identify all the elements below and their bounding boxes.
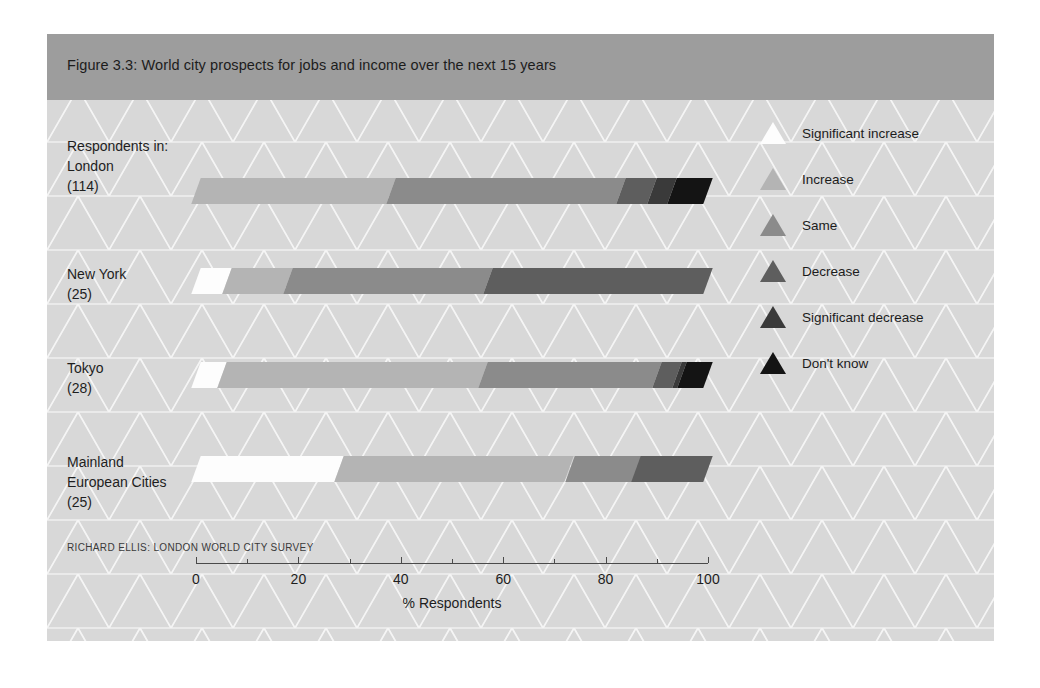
x-axis-tick-label: 20: [291, 571, 307, 587]
source-caption: RICHARD ELLIS: LONDON WORLD CITY SURVEY: [67, 542, 314, 553]
bar-segment-increase: [217, 362, 488, 388]
category-respondent-count: (25): [67, 284, 126, 304]
figure-title: Figure 3.3: World city prospects for job…: [67, 57, 556, 73]
bar-segment-increase: [222, 268, 293, 294]
bar-segment-same: [283, 268, 492, 294]
legend-triangle-icon: [760, 168, 786, 190]
legend-triangle-icon: [760, 214, 786, 236]
legend-label: Same: [802, 218, 837, 233]
bar-segment-same: [386, 178, 626, 204]
bar-segment-increase: [335, 456, 575, 482]
legend-triangle-icon: [760, 306, 786, 328]
legend-item-don-t-know[interactable]: Don't know: [760, 348, 868, 378]
legend-triangle-icon: [760, 122, 786, 144]
x-axis-tick: [196, 557, 197, 563]
category-label-new-york: New York(25): [67, 264, 126, 304]
category-respondent-count: (25): [67, 492, 167, 512]
category-label-line: Tokyo: [67, 358, 104, 378]
x-axis-tick: [503, 557, 504, 563]
bar-new-york: [196, 268, 708, 294]
legend-label: Don't know: [802, 356, 868, 371]
x-axis-line: [196, 563, 708, 564]
x-axis-minor-tick: [247, 559, 248, 563]
legend-item-decrease[interactable]: Decrease: [760, 256, 860, 286]
x-axis-tick: [708, 557, 709, 563]
category-label-mainland-european-cities: MainlandEuropean Cities(25): [67, 452, 167, 512]
x-axis-tick: [401, 557, 402, 563]
figure-container: Figure 3.3: World city prospects for job…: [47, 34, 994, 641]
legend-item-same[interactable]: Same: [760, 210, 837, 240]
bar-mainland-european-cities: [196, 456, 708, 482]
category-label-line: New York: [67, 264, 126, 284]
plot-area: Respondents in:London(114)New York(25)To…: [47, 100, 994, 641]
legend-label: Significant decrease: [802, 310, 924, 325]
legend-triangle-icon: [760, 352, 786, 374]
legend-label: Decrease: [802, 264, 860, 279]
x-axis-tick-label: 100: [696, 571, 719, 587]
bar-segment-significant-increase: [191, 456, 344, 482]
bar-tokyo: [196, 362, 708, 388]
x-axis-tick-label: 40: [393, 571, 409, 587]
x-axis-tick-label: 80: [598, 571, 614, 587]
category-label-line: European Cities: [67, 472, 167, 492]
legend-label: Significant increase: [802, 126, 919, 141]
bar-segment-same: [565, 456, 641, 482]
x-axis-tick: [606, 557, 607, 563]
bar-segment-same: [478, 362, 662, 388]
bar-segment-increase: [191, 178, 395, 204]
category-respondent-count: (28): [67, 378, 104, 398]
bar-london: [196, 178, 708, 204]
bar-segment-don-t-know: [667, 178, 712, 204]
x-axis-tick-label: 60: [495, 571, 511, 587]
category-label-tokyo: Tokyo(28): [67, 358, 104, 398]
x-axis-minor-tick: [350, 559, 351, 563]
x-axis-minor-tick: [452, 559, 453, 563]
x-axis-title: % Respondents: [403, 595, 502, 611]
x-axis-minor-tick: [657, 559, 658, 563]
respondents-in-label: Respondents in:: [67, 136, 168, 156]
bar-segment-decrease: [483, 268, 713, 294]
legend-triangle-icon: [760, 260, 786, 282]
category-label-london: London(114): [67, 156, 114, 196]
x-axis-tick: [298, 557, 299, 563]
legend-label: Increase: [802, 172, 854, 187]
bar-segment-decrease: [632, 456, 713, 482]
category-respondent-count: (114): [67, 176, 114, 196]
x-axis-minor-tick: [554, 559, 555, 563]
x-axis-tick-label: 0: [192, 571, 200, 587]
category-label-line: Mainland: [67, 452, 167, 472]
legend-item-significant-decrease[interactable]: Significant decrease: [760, 302, 924, 332]
category-label-line: London: [67, 156, 114, 176]
legend-item-increase[interactable]: Increase: [760, 164, 854, 194]
legend-item-significant-increase[interactable]: Significant increase: [760, 118, 919, 148]
